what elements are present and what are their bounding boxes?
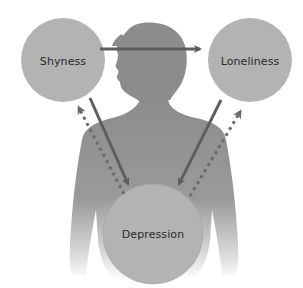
loneliness-label: Loneliness [221,55,280,68]
depression-label: Depression [122,228,185,241]
diagram-canvas: Shyness Loneliness Depression [0,0,303,288]
shyness-label: Shyness [40,55,86,68]
silhouette-head [116,22,187,102]
silhouette-hair [112,34,124,46]
diagram-svg [0,0,303,288]
